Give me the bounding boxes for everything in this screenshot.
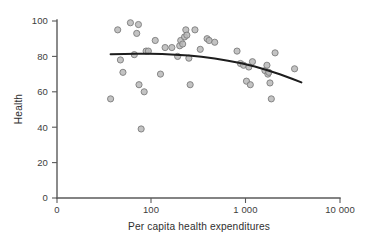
data-point [247,82,253,88]
data-point [267,80,273,86]
scatter-points-layer [108,20,298,132]
data-point [197,46,203,52]
x-axis-tick-labels: 0 100 1 000 10 000 [54,204,355,215]
data-point [249,59,255,65]
x-axis-title: Per capita health expenditures [128,221,270,232]
x-axis-ticks [57,198,340,203]
data-point [234,48,240,54]
y-axis-ticks [52,21,57,198]
data-point [187,82,193,88]
y-tick-label-100: 100 [32,15,48,26]
y-tick-label-80: 80 [37,51,48,62]
x-tick-label-1000: 1 000 [233,204,257,215]
fit-curve-line [111,54,302,83]
data-point [180,41,186,47]
y-tick-label-60: 60 [37,86,48,97]
data-point [264,62,270,68]
data-point [134,30,140,36]
data-point [268,96,274,102]
data-point [162,44,168,50]
x-tick-label-100: 100 [143,204,159,215]
data-point [184,32,190,38]
data-point [192,27,198,33]
x-tick-label-10000: 10 000 [325,204,355,215]
data-point [212,39,218,45]
data-point [169,44,175,50]
chart-canvas: 0 20 40 60 80 100 0 100 1 000 10 000 Per… [0,0,374,241]
y-tick-label-0: 0 [43,192,48,203]
data-point [152,37,158,43]
data-point [138,126,144,132]
data-point [115,27,121,33]
data-point [127,20,133,26]
y-tick-label-40: 40 [37,122,48,133]
data-point [117,57,123,63]
scatter-chart-figure: 0 20 40 60 80 100 0 100 1 000 10 000 Per… [0,0,374,241]
data-point [157,71,163,77]
data-point [108,96,114,102]
x-tick-label-0: 0 [54,204,59,215]
data-point [135,21,141,27]
data-point [136,82,142,88]
data-point [120,69,126,75]
data-point [272,50,278,56]
data-point [291,66,297,72]
y-axis-tick-labels: 0 20 40 60 80 100 [32,15,48,203]
data-point [141,89,147,95]
y-axis-title: Health [13,94,24,124]
y-tick-label-20: 20 [37,157,48,168]
